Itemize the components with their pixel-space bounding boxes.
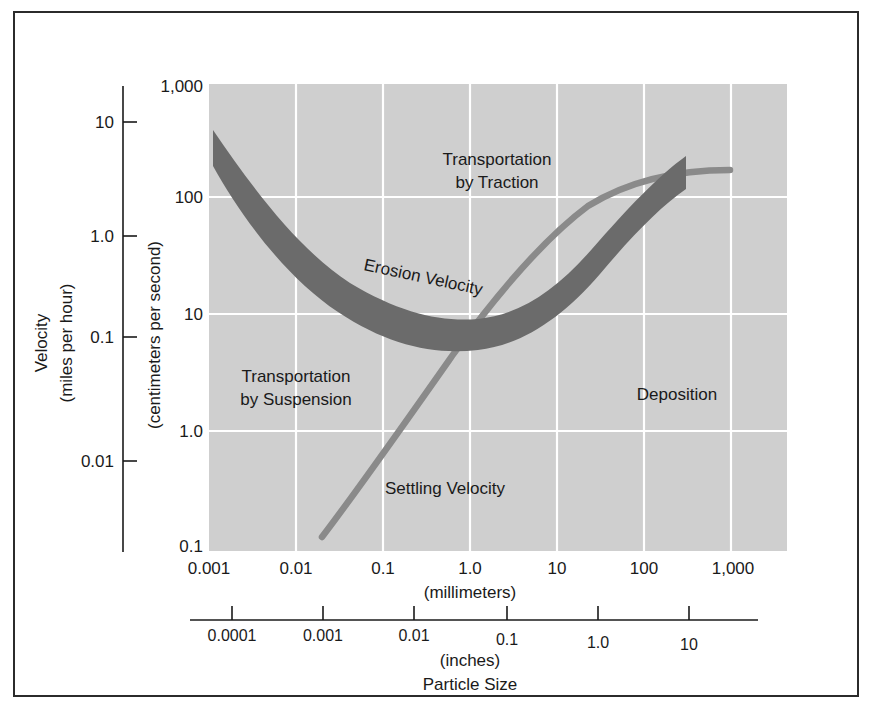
region-suspension-line2: by Suspension [240, 390, 352, 409]
mm-tick-1: 0.01 [279, 559, 312, 578]
mm-axis-tick-labels: 0.001 0.01 0.1 1.0 10 100 1,000 [188, 559, 755, 578]
cms-tick-0: 1,000 [160, 77, 203, 96]
mph-tick-0: 10 [95, 113, 114, 132]
x-axis-unit-inches: (inches) [440, 651, 500, 670]
figure-root: Transportation by Traction Transportatio… [0, 0, 873, 712]
inches-axis-tick-labels: 0.0001 0.001 0.01 0.1 1.0 10 [208, 627, 698, 653]
x-axis-title-particle-size: Particle Size [423, 675, 517, 694]
inches-tick-3: 0.1 [496, 631, 518, 648]
curve-label-settling-velocity: Settling Velocity [385, 479, 506, 498]
x-axis-unit-mm: (millimeters) [424, 583, 517, 602]
cms-axis-tick-labels: 1,000 100 10 1.0 0.1 [160, 77, 203, 556]
inches-tick-4: 1.0 [587, 634, 609, 651]
inches-axis-ticks [232, 606, 689, 620]
mph-tick-3: 0.01 [81, 452, 114, 471]
mph-axis-tick-labels: 10 1.0 0.1 0.01 [81, 113, 114, 471]
mph-tick-2: 0.1 [90, 328, 114, 347]
y-axis-title-velocity: Velocity [32, 313, 51, 372]
region-traction-line2: by Traction [455, 173, 538, 192]
mm-tick-5: 100 [630, 559, 658, 578]
inches-tick-2: 0.01 [398, 627, 429, 644]
inches-tick-1: 0.001 [303, 627, 343, 644]
cms-tick-2: 10 [184, 305, 203, 324]
cms-tick-3: 1.0 [179, 422, 203, 441]
chart-svg: Transportation by Traction Transportatio… [0, 0, 873, 712]
region-suspension-line1: Transportation [242, 367, 351, 386]
inches-tick-5: 10 [680, 636, 698, 653]
mm-tick-3: 1.0 [458, 559, 482, 578]
cms-tick-4: 0.1 [179, 537, 203, 556]
mph-tick-1: 1.0 [90, 227, 114, 246]
mph-axis-ticks [123, 122, 137, 461]
mm-tick-4: 10 [548, 559, 567, 578]
region-label-deposition: Deposition [637, 385, 717, 404]
region-traction-line1: Transportation [443, 150, 552, 169]
mm-tick-6: 1,000 [712, 559, 755, 578]
inches-tick-0: 0.0001 [208, 627, 257, 644]
y-axis-unit-cms: (centimeters per second) [145, 241, 164, 429]
mm-tick-2: 0.1 [371, 559, 395, 578]
mm-tick-0: 0.001 [188, 559, 231, 578]
y-axis-unit-mph: (miles per hour) [57, 283, 76, 402]
cms-tick-1: 100 [175, 188, 203, 207]
